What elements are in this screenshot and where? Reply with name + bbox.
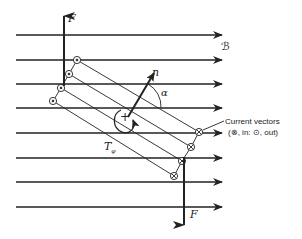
angle-arc bbox=[148, 84, 161, 108]
rotation-sign: + bbox=[120, 110, 130, 124]
angle-label: α bbox=[161, 87, 168, 98]
dot-out-icon bbox=[49, 97, 56, 104]
force-label-bottom: F bbox=[189, 208, 198, 221]
annotation-leader bbox=[203, 121, 224, 130]
cross-in-icon bbox=[170, 172, 177, 179]
dot-out-icon bbox=[65, 70, 72, 77]
annotation-line2: (⊗, in: ⊙, out) bbox=[228, 128, 278, 137]
field-label: ℬ bbox=[221, 40, 230, 53]
cross-in-icon bbox=[187, 143, 194, 150]
normal-label: n bbox=[152, 66, 159, 79]
annotation-line1: Current vectors bbox=[225, 117, 280, 126]
dot-out-icon bbox=[73, 56, 80, 63]
cross-in-icon bbox=[195, 128, 202, 135]
force-label-top: F bbox=[67, 12, 76, 25]
coil-in-magnetic-field-diagram: ℬ F F n α + Tφ Current vectors bbox=[0, 0, 302, 239]
torque-label: Tφ bbox=[104, 140, 116, 155]
magnetic-field-lines bbox=[16, 35, 222, 207]
normal-vector-arrow bbox=[128, 73, 154, 117]
